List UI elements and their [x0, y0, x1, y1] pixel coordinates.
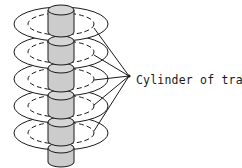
- spindle-hub-6: [48, 143, 74, 167]
- spindle-hub-1: [48, 5, 74, 37]
- disk-stack-diagram: Cylinder of tracks: [0, 0, 242, 168]
- platter-layer: [14, 5, 108, 167]
- spindle-hub-2: [48, 36, 74, 65]
- cylinder-of-tracks-figure: Cylinder of tracks: [0, 0, 242, 168]
- spindle-hub-5: [48, 117, 74, 146]
- cylinder-of-tracks-label: Cylinder of tracks: [136, 73, 242, 87]
- spindle-hub-3: [48, 63, 74, 92]
- hub-top-face: [48, 5, 74, 15]
- spindle-hub-4: [48, 90, 74, 119]
- leader-apex-point: [127, 74, 130, 77]
